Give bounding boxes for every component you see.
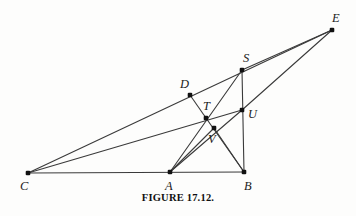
vertex-point-t: [204, 116, 209, 121]
vertex-label-a: A: [165, 180, 173, 193]
geometry-canvas: [0, 0, 356, 216]
vertex-label-u: U: [248, 108, 257, 121]
segment-S-E: [242, 30, 332, 70]
segment-S-B: [242, 70, 244, 172]
vertex-point-s: [240, 68, 245, 73]
vertex-label-d: D: [180, 78, 189, 91]
vertex-point-v: [212, 126, 217, 131]
vertex-label-e: E: [332, 12, 340, 25]
segment-C-E: [28, 30, 332, 173]
vertex-point-u: [240, 108, 245, 113]
vertex-point-a: [168, 170, 173, 175]
vertex-point-c: [26, 171, 31, 176]
vertex-point-b: [242, 170, 247, 175]
vertex-label-t: T: [203, 100, 210, 113]
vertex-label-c: C: [20, 180, 28, 193]
vertex-label-s: S: [243, 52, 249, 65]
vertex-label-b: B: [244, 180, 252, 193]
segment-V-B: [214, 128, 244, 172]
segment-layer: [28, 30, 332, 173]
figure-caption: FIGURE 17.12.: [0, 192, 356, 203]
vertex-point-d: [188, 93, 193, 98]
segment-C-B: [28, 172, 244, 173]
vertex-label-v: V: [208, 133, 216, 146]
segment-U-E: [242, 30, 332, 110]
figure-container: CABESDTUV FIGURE 17.12.: [0, 0, 356, 216]
vertex-point-e: [330, 28, 335, 33]
